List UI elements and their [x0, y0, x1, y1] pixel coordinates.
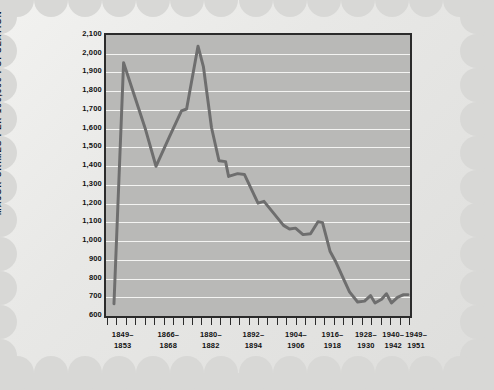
- x-axis-tick: [315, 318, 316, 325]
- scallop-notch: [273, 0, 307, 17]
- scallop-notch: [409, 0, 443, 17]
- x-axis-tick: [286, 318, 287, 325]
- x-axis-tick-label-start: 1928–: [355, 329, 377, 340]
- scallop-notch: [0, 271, 17, 305]
- scallop-notch: [0, 237, 17, 271]
- y-axis-tick-label: 1,800: [82, 85, 102, 94]
- x-axis-tick: [211, 318, 212, 325]
- x-axis-tick-label-start: 1940–: [382, 329, 404, 340]
- x-axis-tick-label-end: 1930: [355, 340, 377, 351]
- x-axis-tick-label-end: 1853: [112, 340, 134, 351]
- x-axis-tick: [239, 318, 240, 325]
- scallop-notch: [375, 0, 409, 17]
- x-axis-tick-label-end: 1942: [382, 340, 404, 351]
- y-axis-tick-label: 1,200: [82, 197, 102, 206]
- y-axis-tick-label: 2,000: [82, 47, 102, 56]
- x-axis-tick: [381, 318, 382, 325]
- x-axis-tick-labels: 1849–18531866–18681880–18821892–18941904…: [70, 329, 450, 363]
- x-axis-tick: [230, 318, 231, 325]
- x-axis-tick-label-start: 1916–: [322, 329, 344, 340]
- scallop-notch: [34, 0, 68, 17]
- x-axis-tick-label: 1849–1853: [112, 329, 134, 351]
- scallop-notch: [460, 136, 494, 170]
- x-axis-tick-label-start: 1849–: [112, 329, 134, 340]
- y-axis-tick-label: 1,300: [82, 178, 102, 187]
- x-axis-tick-label: 1916–1918: [322, 329, 344, 351]
- y-axis-tick-label: 1,600: [82, 122, 102, 131]
- x-axis-tick-label: 1880–1882: [200, 329, 222, 351]
- x-axis-tick: [173, 318, 174, 325]
- x-axis-tick: [126, 318, 127, 325]
- x-axis-tick: [192, 318, 193, 325]
- x-axis-tick: [183, 318, 184, 325]
- y-axis-tick-label: 1,700: [82, 103, 102, 112]
- series-line-chart: [106, 35, 410, 316]
- x-axis-ticks: [104, 318, 412, 326]
- x-axis-tick-label-end: 1882: [200, 340, 222, 351]
- x-axis-tick-label-end: 1918: [322, 340, 344, 351]
- scallop-notch: [170, 0, 204, 17]
- scallop-notch: [460, 34, 494, 68]
- x-axis-tick-label-start: 1892–: [243, 329, 265, 340]
- scallop-notch: [0, 356, 34, 390]
- scallop-notch: [0, 305, 17, 339]
- x-axis-tick: [220, 318, 221, 325]
- x-axis-tick: [154, 318, 155, 325]
- x-axis-tick-label-end: 1906: [285, 340, 307, 351]
- x-axis-tick-label-end: 1868: [157, 340, 179, 351]
- scallop-notch: [341, 0, 375, 17]
- scallop-notch: [239, 0, 273, 17]
- x-axis-tick: [409, 318, 410, 325]
- x-axis-tick: [258, 318, 259, 325]
- x-axis-tick-label: 1904–1906: [285, 329, 307, 351]
- x-axis-tick: [267, 318, 268, 325]
- scallop-notch: [460, 68, 494, 102]
- x-axis-tick: [296, 318, 297, 325]
- y-axis-tick-label: 1,900: [82, 66, 102, 75]
- chart-plot-area: [104, 33, 412, 318]
- x-axis-tick: [249, 318, 250, 325]
- y-axis-tick-labels: 6007008009001,0001,1001,2001,3001,4001,5…: [60, 28, 102, 324]
- scallop-notch: [460, 170, 494, 204]
- scallop-notch: [307, 0, 341, 17]
- x-axis-tick-label-end: 1951: [405, 340, 427, 351]
- x-axis-tick: [305, 318, 306, 325]
- scallop-notch: [460, 271, 494, 305]
- scallop-notch: [102, 0, 136, 17]
- x-axis-tick: [343, 318, 344, 325]
- y-axis-tick-label: 1,500: [82, 141, 102, 150]
- y-axis-tick-label: 900: [89, 253, 102, 262]
- x-axis-tick-label-start: 1866–: [157, 329, 179, 340]
- y-axis-tick-label: 800: [89, 272, 102, 281]
- y-axis-tick-label: 600: [89, 310, 102, 319]
- scallop-notch: [68, 0, 102, 17]
- x-axis-tick: [362, 318, 363, 325]
- scallop-notch: [460, 237, 494, 271]
- x-axis-tick: [135, 318, 136, 325]
- scallop-notch: [460, 305, 494, 339]
- x-axis-tick: [371, 318, 372, 325]
- x-axis-tick: [390, 318, 391, 325]
- y-axis-tick-label: 1,400: [82, 160, 102, 169]
- x-axis-tick-label: 1940–1942: [382, 329, 404, 351]
- x-axis-tick: [164, 318, 165, 325]
- x-axis-tick: [334, 318, 335, 325]
- x-axis-tick-label: 1866–1868: [157, 329, 179, 351]
- x-axis-tick: [277, 318, 278, 325]
- x-axis-tick-label: 1892–1894: [243, 329, 265, 351]
- scallop-notch: [460, 102, 494, 136]
- x-axis-tick: [201, 318, 202, 325]
- x-axis-tick: [116, 318, 117, 325]
- x-axis-tick-label: 1949–1951: [405, 329, 427, 351]
- x-axis-tick: [400, 318, 401, 325]
- scallop-notch: [460, 203, 494, 237]
- scallop-notch: [34, 356, 68, 390]
- y-axis-tick-label: 2,100: [82, 29, 102, 38]
- x-axis-tick: [324, 318, 325, 325]
- x-axis-tick-label-start: 1949–: [405, 329, 427, 340]
- x-axis-tick: [352, 318, 353, 325]
- series-polyline: [114, 46, 408, 304]
- y-axis-tick-label: 700: [89, 291, 102, 300]
- x-axis-tick-label-start: 1880–: [200, 329, 222, 340]
